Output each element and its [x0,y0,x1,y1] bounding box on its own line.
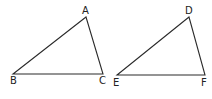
triangle-abc: A B C [10,5,106,86]
congruent-triangles-diagram: A B C D E F [0,0,212,99]
triangle-abc-outline [13,17,103,74]
vertex-label-c: C [99,75,106,86]
vertex-label-e: E [113,77,119,88]
triangle-def-outline [117,17,205,75]
triangle-def: D E F [113,5,207,88]
vertex-label-b: B [10,75,17,86]
vertex-label-d: D [185,5,193,16]
vertex-label-f: F [201,77,207,88]
vertex-label-a: A [82,5,89,16]
